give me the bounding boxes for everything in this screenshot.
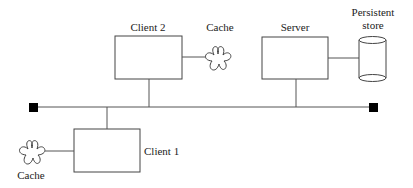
store-label-line2: store [362,19,384,31]
store-label-line1: Persistent [352,6,395,18]
cache-cloud-icon [206,47,231,70]
database-cylinder-icon [359,37,386,82]
server-node: Server [262,21,359,107]
bus-terminator-right [369,103,378,112]
client-2-node: Client 2 [115,21,206,107]
client-2-label: Client 2 [130,21,165,33]
cache-cloud-icon [20,141,45,164]
bus-terminator-left [29,103,38,112]
network-diagram: Client 2 Cache Server Persistent store C… [0,0,413,188]
client-2-cache-node: Cache [206,21,234,70]
persistent-store-node: Persistent store [352,6,395,82]
client-1-box [74,129,140,172]
client-1-cache-label: Cache [17,169,45,181]
client-1-node: Client 1 [45,107,179,172]
client-1-cache-node: Cache [17,141,45,181]
client-1-label: Client 1 [144,145,179,157]
server-label: Server [281,21,310,33]
server-box [262,37,328,79]
client-2-cache-label: Cache [206,21,234,33]
client-2-box [115,36,182,79]
